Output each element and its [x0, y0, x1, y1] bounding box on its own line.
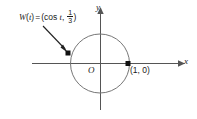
- fraction-one-third: 1 3: [67, 9, 73, 25]
- annotation-arrow: [43, 26, 68, 53]
- open-coord-cos: (cos: [41, 13, 57, 22]
- y-axis: [97, 7, 103, 110]
- close-coord: ): [74, 13, 77, 22]
- equals-sign: =: [35, 13, 40, 22]
- origin-label: O: [88, 66, 95, 75]
- w-of-t-annotation-label: W ( t ) = (cos t , 1 3 ): [19, 9, 76, 25]
- one-zero-point-label: (1, 0): [130, 66, 150, 75]
- fraction-numerator: 1: [67, 9, 73, 16]
- function-letter: W: [19, 13, 26, 22]
- fraction-denominator: 3: [67, 17, 73, 24]
- w-of-t-point-marker: [66, 51, 71, 56]
- x-axis-label: x: [184, 57, 188, 66]
- unit-circle-diagram: x y O (1, 0) W ( t ) = (cos t , 1 3 ): [0, 0, 197, 119]
- x-axis: [32, 60, 185, 66]
- close-paren: ): [31, 13, 34, 22]
- y-axis-label: y: [96, 3, 100, 12]
- annotation-arrow-shaft: [43, 26, 65, 49]
